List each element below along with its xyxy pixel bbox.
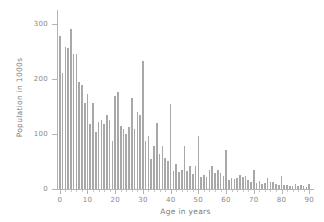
bar (223, 176, 225, 189)
bar (247, 180, 249, 189)
bar (175, 164, 177, 189)
bar (209, 170, 211, 189)
x-axis-minor-tick (193, 190, 194, 192)
bar (81, 85, 83, 190)
bar (267, 178, 269, 189)
x-axis-minor-tick (287, 190, 288, 192)
x-axis-title: Age in years (57, 207, 314, 216)
bar (192, 174, 194, 189)
bar (228, 180, 230, 189)
bar (214, 173, 216, 189)
bar (253, 170, 255, 189)
bar (98, 122, 100, 189)
bar (189, 166, 191, 189)
x-axis-minor-tick (160, 190, 161, 192)
x-axis-tick (87, 190, 88, 194)
y-axis-tick-label: 0 (8, 185, 48, 193)
x-axis-minor-tick (76, 190, 77, 192)
bar (89, 124, 91, 189)
x-axis-minor-tick (276, 190, 277, 192)
bar (195, 166, 197, 189)
bar (164, 158, 166, 189)
x-axis-minor-tick (204, 190, 205, 192)
bar (303, 186, 305, 189)
x-axis-minor-tick (132, 190, 133, 192)
bar (153, 146, 155, 189)
bar (239, 175, 241, 189)
x-axis-minor-tick (298, 190, 299, 192)
bar-series (57, 13, 312, 189)
x-axis-tick (254, 190, 255, 194)
bar (145, 141, 147, 189)
bar (73, 54, 75, 189)
x-axis-minor-tick (99, 190, 100, 192)
bar (203, 175, 205, 189)
x-axis-tick (198, 190, 199, 194)
bar (220, 173, 222, 190)
x-axis-minor-tick (182, 190, 183, 192)
x-axis-minor-tick (71, 190, 72, 192)
bar (259, 181, 261, 189)
x-axis-minor-tick (187, 190, 188, 192)
bar (225, 150, 227, 189)
bar (270, 182, 272, 189)
x-axis-minor-tick (104, 190, 105, 192)
population-age-histogram-figure: 0100200300 0102030405060708090 Age in ye… (0, 0, 324, 222)
bar (159, 154, 161, 189)
bar (245, 176, 247, 189)
bar (128, 127, 130, 189)
bar (261, 184, 263, 190)
bar (181, 170, 183, 189)
bar (70, 29, 72, 189)
bar (295, 184, 297, 190)
x-axis-tick (143, 190, 144, 194)
bar (106, 115, 108, 189)
bar (95, 132, 97, 189)
bar (87, 94, 89, 189)
bar (211, 166, 213, 189)
bar (131, 98, 133, 189)
bar (112, 141, 114, 189)
x-axis-tick-label: 0 (48, 196, 72, 204)
x-axis-minor-tick (248, 190, 249, 192)
bar (286, 185, 288, 189)
bar (173, 171, 175, 189)
x-axis-minor-tick (221, 190, 222, 192)
x-axis-minor-tick (270, 190, 271, 192)
x-axis-minor-tick (243, 190, 244, 192)
bar (101, 120, 103, 189)
bar (123, 129, 125, 190)
x-axis-tick-label: 90 (297, 196, 321, 204)
bar (150, 159, 152, 189)
bar (283, 185, 285, 189)
bar (275, 184, 277, 189)
x-axis-tick-label: 50 (186, 196, 210, 204)
x-axis-tick-label: 70 (242, 196, 266, 204)
bar (200, 177, 202, 189)
x-axis-minor-tick (154, 190, 155, 192)
bar (109, 120, 111, 189)
bar (148, 136, 150, 189)
x-axis-tick-label: 30 (131, 196, 155, 204)
x-axis-minor-tick (215, 190, 216, 192)
bar (134, 129, 136, 190)
bar (184, 146, 186, 189)
bar (125, 134, 127, 189)
x-axis-tick (282, 190, 283, 194)
x-axis-minor-tick (209, 190, 210, 192)
x-axis-minor-tick (82, 190, 83, 192)
x-axis-minor-tick (237, 190, 238, 192)
bar (300, 185, 302, 189)
x-axis-tick (226, 190, 227, 194)
x-axis-tick (309, 190, 310, 194)
y-axis-tick (52, 189, 57, 190)
x-axis-tick-label: 40 (159, 196, 183, 204)
x-axis-minor-tick (293, 190, 294, 192)
x-axis-minor-tick (265, 190, 266, 192)
bar (76, 54, 78, 189)
bar (167, 161, 169, 189)
bar (162, 146, 164, 189)
bar (278, 185, 280, 189)
bar (59, 36, 61, 189)
x-axis-tick (60, 190, 61, 194)
